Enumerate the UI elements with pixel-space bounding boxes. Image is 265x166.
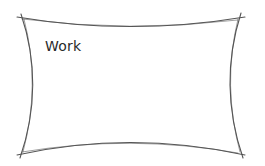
sketchy-rectangle-node[interactable] xyxy=(0,0,265,166)
node-label: Work xyxy=(45,38,81,54)
